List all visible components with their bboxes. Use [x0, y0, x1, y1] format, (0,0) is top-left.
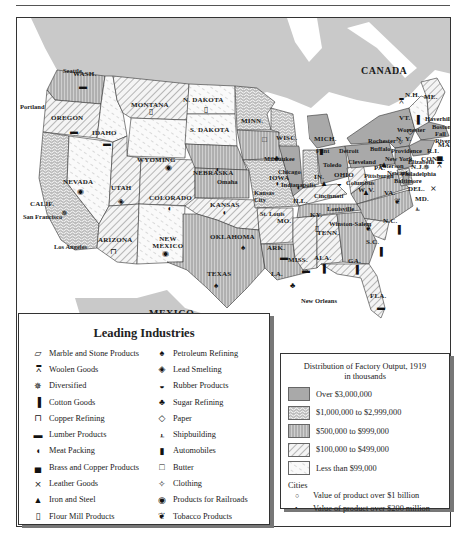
cotton-goods-icon: ▐ [377, 248, 383, 256]
rubber-products-icon: ◒ [337, 180, 342, 188]
city-label-cleveland: Cleveland [348, 159, 376, 166]
legend-class-lt-99k: Less than $99,000 [281, 459, 449, 478]
city-label-columbus: Columbus [346, 180, 375, 187]
city-label-seattle: Seattle [63, 68, 82, 75]
state-label-ky: KY. [310, 212, 322, 219]
legend-item-meat: ◖Meat Packing [27, 443, 151, 459]
swatch-light-dash [288, 461, 310, 475]
lead-icon: ◈ [151, 364, 173, 374]
legend-item-marble: ▱Marble and Stone Products [27, 345, 151, 361]
state-label-calif: CALIF. [30, 201, 54, 208]
oil-derrick-icon: ♠ [151, 348, 173, 358]
city-label-chicago: Chicago [278, 169, 301, 176]
city-label-rochester: Rochester [368, 138, 396, 145]
cotton-goods-icon: ▐ [395, 226, 401, 234]
petroleum-refining-icon: ♠ [241, 244, 245, 252]
car-icon: ▮ [151, 446, 173, 456]
state-label-ga: GA. [348, 258, 361, 265]
lumber-icon: ▬ [103, 140, 111, 148]
city-label-providence: Providence [391, 148, 422, 155]
tobacco-leaf-icon: ❦ [151, 511, 173, 521]
shirt-icon: ✧ [151, 479, 173, 489]
state-label-nh: N.H. [405, 92, 420, 99]
state-label-arizona: ARIZONA [98, 237, 132, 244]
lumber-icon: ▬ [280, 254, 288, 262]
open-circle-icon: ○ [295, 492, 313, 500]
legend-city-over-200m: • Value of product over $200 million [281, 502, 449, 515]
railroad-products-icon: ◉ [162, 250, 169, 258]
lead-smelting-icon: ◈ [118, 198, 124, 206]
distribution-legend: Distribution of Factory Output, 1919 in … [280, 353, 450, 509]
industries-legend: Leading Industries ▱Marble and Stone Pro… [18, 313, 270, 525]
state-label-tenn: TENN. [317, 230, 339, 237]
state-label-fla: FLA. [370, 293, 387, 300]
legend-item-shipbuilding: ⫠Shipbuilding [151, 426, 269, 442]
state-label-mich: MICH. [314, 136, 337, 143]
state-label-vt: VT. [399, 115, 411, 122]
legend-item-leather: ⨯Leather Goods [27, 475, 151, 491]
sugar-icon: ♣ [151, 397, 173, 407]
state-label-la: LA. [271, 271, 283, 278]
clothing-icon: ✧ [397, 139, 404, 147]
wheel-icon: ◉ [151, 495, 173, 505]
flour-mill-icon: ▯ [315, 225, 319, 233]
industries-legend-left-column: ▱Marble and Stone Products ⩞Woolen Goods… [27, 345, 151, 524]
ladle-icon: ▲ [27, 495, 49, 505]
legend-item-diversified: ✵Diversified [27, 378, 151, 394]
butter-icon: □ [151, 462, 173, 472]
legend-item-rubber: ◒Rubber Products [151, 378, 269, 394]
rubber-icon: ◒ [151, 381, 173, 391]
legend-city-over-1b: ○ Value of product over $1 billion [281, 490, 449, 503]
legend-item-cotton: ▐Cotton Goods [27, 394, 151, 410]
copper-refining-icon: ⊓ [110, 248, 117, 256]
state-label-miss: MISS. [288, 257, 308, 264]
meat-packing-icon: ◖ [167, 205, 172, 213]
flour-sack-icon: ▯ [27, 511, 49, 521]
legend-item-automobiles: ▮Automobiles [151, 443, 269, 459]
city-label-toledo: Toledo [323, 162, 342, 169]
state-label-nevada: NEVADA [63, 179, 93, 186]
top-rule [16, 5, 450, 6]
legend-item-lead: ◈Lead Smelting [151, 361, 269, 377]
railroad-products-icon: ◉ [77, 188, 84, 196]
state-label-ill: ILL. [293, 198, 308, 205]
state-label-oklahoma: OKLAHOMA [210, 234, 255, 241]
state-label-mo: MO. [277, 218, 291, 225]
swatch-vertical [288, 424, 310, 438]
legend-item-butter: □Butter [151, 459, 269, 475]
city-label-buffalo: Buffalo [370, 146, 391, 153]
woolen-goods-icon: ⩞ [399, 98, 404, 106]
industries-legend-right-column: ♠Petroleum Refining ◈Lead Smelting ◒Rubb… [151, 345, 269, 524]
meat-packing-icon: ◖ [296, 184, 301, 192]
flour-mill-icon: ▯ [204, 106, 208, 114]
cities-heading: Cities [281, 481, 449, 490]
city-label-kansas-city: Kansas City [254, 190, 280, 203]
legend-class-100k-499k: $100,000 to $499,000 [281, 441, 449, 460]
city-label-cincinnati: Cincinnati [314, 193, 343, 200]
sugar-refining-icon: ♣ [274, 155, 279, 163]
legend-item-iron: ▲Iron and Steel [27, 492, 151, 508]
butter-icon: □ [262, 136, 267, 144]
state-label-wisc: WISC. [276, 135, 297, 142]
state-label-s-dakota: S. DAKOTA [190, 127, 229, 134]
state-label-del: DEL. [408, 186, 425, 193]
automobiles-icon: ▮ [319, 148, 323, 156]
iron-steel-icon: ▲ [362, 189, 370, 197]
state-label-idaho: IDAHO [92, 130, 117, 137]
lumber-icon: ▬ [302, 267, 310, 275]
swatch-solid [288, 387, 310, 401]
legend-class-500k-999k: $500,000 to $999,000 [281, 422, 449, 441]
swatch-stipple [288, 406, 310, 420]
city-label-new-orleans: New Orleans [301, 298, 337, 305]
state-label-oregon: OREGON [51, 115, 83, 122]
meat-packing-icon: ◖ [275, 180, 280, 188]
iron-steel-icon: ▲ [380, 161, 388, 169]
ship-icon: ⫠ [151, 429, 173, 440]
lumber-icon: ▬ [79, 83, 87, 91]
meat-icon: ◖ [27, 446, 49, 456]
tobacco-icon: ❦ [394, 198, 401, 206]
city-label-st-louis: St. Louis [260, 211, 285, 218]
state-label-new-mexico: NEW MEXICO [148, 236, 188, 250]
state-label-me: ME. [424, 94, 438, 101]
distribution-legend-title: Distribution of Factory Output, 1919 in … [281, 362, 449, 381]
